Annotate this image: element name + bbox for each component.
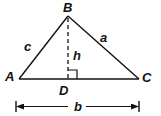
triangle-diagram: B A C D c a h b [0,0,161,116]
vertex-label-d: D [59,83,69,98]
side-label-c: c [24,39,32,54]
dimension-label-b: b [74,99,82,114]
side-label-a: a [100,30,107,45]
vertex-label-a: A [4,69,14,84]
vertex-label-b: B [63,0,72,15]
right-angle-marker [68,70,77,79]
altitude-label-h: h [73,48,81,63]
vertex-label-c: C [142,70,152,85]
